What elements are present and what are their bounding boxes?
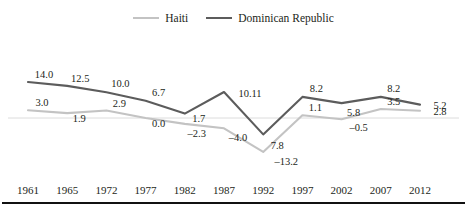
x-tick-label: 1982: [174, 183, 196, 197]
legend-label-haiti: Haiti: [165, 12, 188, 24]
haiti-value-label: –2.3: [188, 127, 206, 138]
dominican-republic-value-label: 8.2: [310, 82, 323, 93]
x-tick-label: 2002: [331, 183, 353, 197]
x-tick-label: 1972: [95, 183, 117, 197]
line-chart: Haiti Dominican Republic 14.012.510.06.7…: [0, 0, 467, 217]
haiti-value-label: 1.9: [73, 113, 86, 124]
dominican-republic-value-label: 10.11: [238, 88, 261, 99]
plot-area: 14.012.510.06.71.710.117.88.25.88.25.23.…: [0, 30, 467, 190]
legend-item-dominican-republic[interactable]: Dominican Republic: [206, 12, 334, 24]
x-tick-label: 1992: [252, 183, 274, 197]
chart-legend: Haiti Dominican Republic: [0, 10, 467, 26]
axis-bottom-rule: [2, 202, 465, 204]
haiti-value-label: 2.8: [433, 105, 446, 116]
x-tick-label: 2007: [370, 183, 392, 197]
x-tick-label: 1987: [213, 183, 235, 197]
dominican-republic-value-label: 6.7: [152, 86, 165, 97]
x-tick-label: 1977: [135, 183, 157, 197]
legend-label-dominican-republic: Dominican Republic: [238, 12, 334, 24]
haiti-value-label: 3.0: [35, 97, 48, 108]
legend-item-haiti[interactable]: Haiti: [133, 12, 188, 24]
x-axis: 1961196519721977198219871992199720022007…: [0, 183, 467, 199]
dominican-republic-value-label: 7.8: [271, 140, 284, 151]
haiti-value-label: 0.0: [152, 118, 165, 129]
dominican-republic-value-label: 14.0: [35, 69, 53, 80]
legend-swatch-haiti: [133, 17, 159, 19]
haiti-value-label: –13.2: [274, 155, 298, 166]
x-tick-label: 1961: [17, 183, 39, 197]
dominican-republic-value-label: 12.5: [71, 72, 89, 83]
haiti-value-label: 2.9: [113, 97, 126, 108]
haiti-value-label: –0.5: [349, 122, 367, 133]
x-tick-label: 1997: [291, 183, 313, 197]
dominican-republic-value-label: 5.8: [347, 107, 360, 118]
x-tick-label: 2012: [409, 183, 431, 197]
dominican-republic-value-label: 8.2: [387, 82, 400, 93]
haiti-value-label: –4.0: [229, 132, 247, 143]
x-tick-label: 1965: [56, 183, 78, 197]
haiti-value-label: 3.5: [387, 96, 400, 107]
haiti-value-label: 1.1: [309, 102, 322, 113]
dominican-republic-value-label: 1.7: [192, 112, 205, 123]
legend-swatch-dominican-republic: [206, 17, 232, 19]
dominican-republic-value-label: 10.0: [111, 78, 129, 89]
plot-svg: [0, 30, 467, 190]
